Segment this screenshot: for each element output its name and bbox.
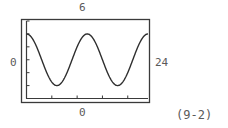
plot-window xyxy=(0,0,228,128)
plot-frame xyxy=(22,20,150,103)
curve-line xyxy=(27,34,149,86)
